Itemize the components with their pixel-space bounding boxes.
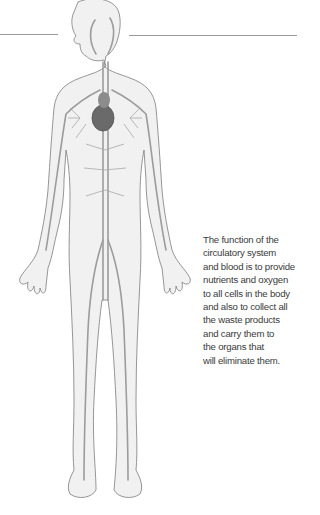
- caption-text: The function of the circulatory system a…: [203, 233, 297, 367]
- aortic-arch: [98, 92, 110, 108]
- head: [20, 0, 191, 497]
- caption-line: nutrients and oxygen: [203, 273, 297, 286]
- caption-line: will eliminate them.: [203, 354, 297, 367]
- caption-line: to all cells in the body: [203, 287, 297, 300]
- caption-line: and also to collect all: [203, 300, 297, 313]
- caption-line: the organs that: [203, 340, 297, 353]
- heart: [92, 105, 114, 131]
- caption-line: and carry them to: [203, 327, 297, 340]
- caption-line: circulatory system: [203, 246, 297, 259]
- caption-line: The function of the: [203, 233, 297, 246]
- caption-line: the waste products: [203, 313, 297, 326]
- caption-line: and blood is to provide: [203, 260, 297, 273]
